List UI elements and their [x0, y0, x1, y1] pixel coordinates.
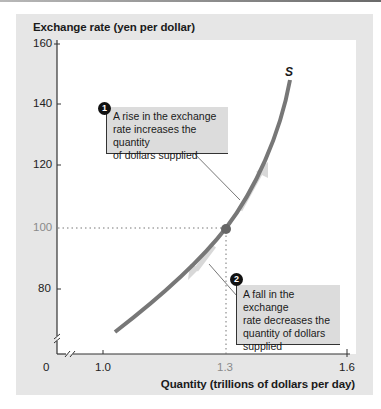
callout-2-badge: 2 [230, 273, 243, 286]
curve-label-s: S [285, 65, 293, 79]
callout-1: A rise in the exchange rate increases th… [106, 107, 228, 154]
callout-2: A fall in the exchange rate decreases th… [236, 285, 340, 345]
arrow-down-icon [188, 246, 214, 280]
equilibrium-point [221, 224, 231, 234]
callout-1-badge: 1 [98, 102, 111, 115]
